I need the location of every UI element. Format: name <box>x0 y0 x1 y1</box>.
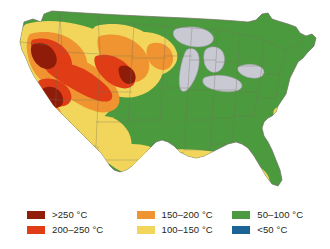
legend-label-over-250: >250 °C <box>52 210 87 220</box>
legend-swatch-200-250 <box>27 226 45 234</box>
legend-row: 200–250 °C 100–150 °C <50 °C <box>0 222 330 238</box>
map-legend: >250 °C 150–200 °C 50–100 °C 200–250 °C … <box>0 203 330 249</box>
legend-item-over-250[interactable]: >250 °C <box>0 207 131 223</box>
map-svg <box>0 0 330 203</box>
legend-item-200-250[interactable]: 200–250 °C <box>0 222 131 238</box>
legend-swatch-under-50 <box>232 226 250 234</box>
legend-label-under-50: <50 °C <box>257 225 287 235</box>
us-temperature-map <box>0 0 330 203</box>
legend-swatch-150-200 <box>137 211 155 219</box>
legend-item-under-50[interactable]: <50 °C <box>229 222 330 238</box>
legend-swatch-over-250 <box>27 211 45 219</box>
legend-item-50-100[interactable]: 50–100 °C <box>229 207 330 223</box>
legend-label-200-250: 200–250 °C <box>52 225 103 235</box>
legend-swatch-50-100 <box>232 211 250 219</box>
legend-item-100-150[interactable]: 100–150 °C <box>131 222 230 238</box>
legend-label-150-200: 150–200 °C <box>162 210 213 220</box>
legend-label-50-100: 50–100 °C <box>257 210 303 220</box>
legend-row: >250 °C 150–200 °C 50–100 °C <box>0 207 330 223</box>
legend-label-100-150: 100–150 °C <box>162 225 213 235</box>
lake-huron <box>204 47 225 73</box>
legend-item-150-200[interactable]: 150–200 °C <box>131 207 230 223</box>
legend-swatch-100-150 <box>137 226 155 234</box>
